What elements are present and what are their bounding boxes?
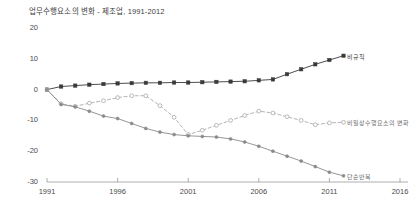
y-axis-tick-label: 0 (14, 85, 38, 94)
series-marker (74, 84, 77, 87)
series-marker (271, 150, 274, 153)
series-marker (46, 88, 49, 91)
series-marker (102, 99, 106, 103)
series-label-0: 비규칙 (347, 52, 365, 61)
series-marker (158, 81, 161, 84)
series-marker (215, 123, 219, 127)
series-marker (201, 135, 204, 138)
series-marker (102, 82, 105, 85)
series-marker (328, 171, 331, 174)
series-marker (271, 78, 274, 81)
series-marker (257, 145, 260, 148)
x-axis-tick-label: 2016 (380, 187, 415, 196)
series-marker (215, 80, 218, 83)
series-label-2: 단순반복 (347, 172, 371, 181)
y-axis-tick-label: -20 (14, 146, 38, 155)
series-marker (229, 137, 232, 140)
x-axis-tick-label: 1996 (98, 187, 138, 196)
series-marker (60, 103, 63, 106)
series-marker (285, 115, 289, 119)
series-marker (116, 96, 120, 100)
series-marker (243, 114, 247, 118)
series-marker (300, 160, 303, 163)
series-marker (130, 94, 134, 98)
series-marker (172, 81, 175, 84)
series-marker (74, 105, 77, 108)
series-marker (201, 81, 204, 84)
y-axis-tick-label: 10 (14, 54, 38, 63)
series-label-1: 비일상수행요소의 변화 (347, 118, 409, 127)
series-marker (173, 133, 176, 136)
series-marker (229, 80, 232, 83)
series-marker (299, 119, 303, 123)
series-marker (88, 83, 91, 86)
x-axis-tick-label: 2006 (239, 187, 279, 196)
series-marker (314, 63, 317, 66)
series-marker (342, 120, 346, 124)
series-marker (59, 85, 62, 88)
series-marker (286, 155, 289, 158)
y-axis-tick-label: 20 (14, 23, 38, 32)
series-marker (342, 174, 345, 177)
series-marker (172, 115, 176, 119)
series-marker (158, 104, 162, 108)
series-marker (88, 110, 91, 113)
series-marker (257, 109, 261, 113)
series-marker (130, 122, 133, 125)
series-marker (144, 127, 147, 130)
series-marker (116, 117, 119, 120)
series-marker (314, 165, 317, 168)
series-marker (271, 111, 275, 115)
series-marker (144, 94, 148, 98)
series-marker (328, 58, 331, 61)
x-axis-tick-label: 1991 (27, 187, 67, 196)
series-marker (243, 80, 246, 83)
series-marker (328, 121, 332, 125)
x-axis-tick-label: 2011 (309, 187, 349, 196)
series-marker (200, 128, 204, 132)
series-marker (342, 54, 345, 57)
series-marker (144, 81, 147, 84)
series-marker (116, 82, 119, 85)
series-marker (187, 81, 190, 84)
chart-container: 업무수행요소의 변화 - 제조업, 1991-2012 20100-10-20-… (0, 0, 415, 208)
series-marker (285, 73, 288, 76)
series-marker (158, 131, 161, 134)
series-marker (102, 115, 105, 118)
y-axis-tick-label: -10 (14, 115, 38, 124)
y-axis-tick-label: -30 (14, 177, 38, 186)
series-marker (215, 136, 218, 139)
series-line-0 (47, 56, 344, 90)
x-axis-tick-label: 2001 (168, 187, 208, 196)
series-marker (130, 81, 133, 84)
series-marker (299, 68, 302, 71)
series-marker (87, 101, 91, 105)
series-marker (187, 134, 190, 137)
series-marker (313, 123, 317, 127)
series-marker (257, 79, 260, 82)
series-marker (229, 119, 233, 123)
series-marker (243, 140, 246, 143)
